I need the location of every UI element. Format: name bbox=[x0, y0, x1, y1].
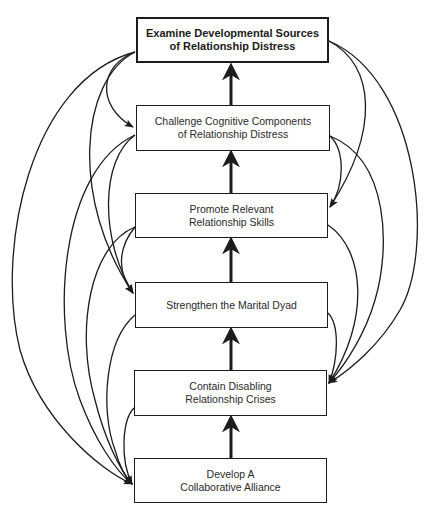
node-text-line: of Relationship Distress bbox=[155, 128, 311, 141]
curve-n1-to-n5 bbox=[329, 41, 417, 383]
curve-n3-to-n5 bbox=[328, 225, 358, 383]
curve-n1-to-n6 bbox=[12, 52, 135, 484]
node-text-line: Promote Relevant bbox=[189, 203, 274, 216]
curve-n3-to-n6 bbox=[86, 227, 135, 484]
curve-n1-to-n2 bbox=[107, 52, 135, 127]
node-text-line: Relationship Crises bbox=[185, 393, 275, 406]
left-curved-connectors bbox=[12, 52, 135, 484]
curve-n3-to-n4 bbox=[121, 227, 135, 293]
curve-n5-to-n6 bbox=[124, 408, 134, 484]
connector-layer bbox=[0, 0, 442, 519]
node-text-line: Develop A bbox=[180, 468, 280, 481]
curve-n1-to-n3 bbox=[329, 41, 366, 207]
node-text-line: Relationship Skills bbox=[189, 216, 274, 229]
curve-n4-to-n6 bbox=[107, 315, 135, 484]
curve-n2-to-n3 bbox=[330, 136, 341, 207]
node-develop-collaborative-alliance: Develop A Collaborative Alliance bbox=[134, 458, 327, 503]
node-text-line: of Relationship Distress bbox=[146, 40, 319, 53]
curve-n2-to-n5 bbox=[329, 136, 383, 383]
node-contain-relationship-crises: Contain Disabling Relationship Crises bbox=[134, 370, 327, 416]
right-curved-connectors bbox=[328, 41, 417, 383]
node-text-line: Examine Developmental Sources bbox=[146, 27, 319, 40]
node-examine-developmental-sources: Examine Developmental Sources of Relatio… bbox=[136, 17, 329, 63]
node-strengthen-marital-dyad: Strengthen the Marital Dyad bbox=[135, 282, 328, 328]
node-challenge-cognitive-components: Challenge Cognitive Components of Relati… bbox=[136, 105, 330, 151]
node-text-line: Strengthen the Marital Dyad bbox=[166, 299, 297, 312]
node-text-line: Contain Disabling bbox=[185, 380, 275, 393]
node-promote-relationship-skills: Promote Relevant Relationship Skills bbox=[135, 193, 328, 238]
node-text-line: Challenge Cognitive Components bbox=[155, 115, 311, 128]
node-text-line: Collaborative Alliance bbox=[180, 481, 280, 494]
